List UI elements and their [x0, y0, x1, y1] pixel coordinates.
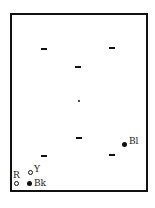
bk-marker-dot [27, 181, 32, 186]
diagram-frame [10, 13, 148, 192]
dash-mark [75, 66, 81, 68]
bl-label: Bl [129, 137, 139, 146]
dash-mark [109, 47, 115, 49]
bl-marker-dot [122, 142, 127, 147]
dash-mark [41, 48, 47, 50]
r-marker-ring [14, 181, 19, 186]
r-label: R [13, 171, 20, 180]
dash-mark [41, 155, 47, 157]
center-dot [78, 100, 80, 102]
y-label: Y [34, 165, 40, 174]
bk-label: Bk [34, 179, 46, 188]
dash-mark [76, 137, 82, 139]
dash-mark [109, 154, 115, 156]
y-marker-ring [28, 170, 33, 175]
